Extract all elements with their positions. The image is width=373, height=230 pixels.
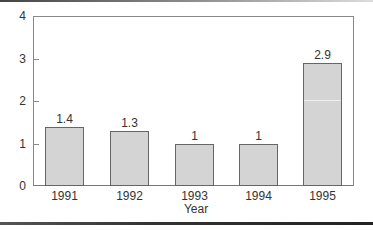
y-tick-label: 1 [6,137,26,151]
bar-1994 [239,144,278,187]
x-axis-title: Year [166,202,226,216]
x-tick-label: 1994 [234,189,284,203]
bar-value-label: 1 [170,129,220,143]
bar-1991 [45,127,84,187]
x-tick-label: 1995 [298,189,348,203]
y-tick-mark [33,101,39,102]
bar-1992 [110,131,149,186]
bar-value-label: 2.9 [298,48,348,62]
bar-1993 [175,144,214,187]
x-tick-label: 1993 [170,189,220,203]
x-tick-label: 1992 [105,189,155,203]
bar-1995 [303,63,342,186]
y-tick-label: 0 [6,179,26,193]
bar-value-label: 1.4 [40,112,90,126]
bar-value-label: 1.3 [105,116,155,130]
x-tick-label: 1991 [40,189,90,203]
y-tick-mark [33,144,39,145]
bottom-rule [0,222,373,225]
y-tick-label: 2 [6,94,26,108]
y-tick-label: 3 [6,52,26,66]
bar-value-label: 1 [234,129,284,143]
bar-highlight [304,100,341,101]
y-tick-mark [33,59,39,60]
top-rule [0,0,373,2]
y-tick-label: 4 [6,9,26,23]
